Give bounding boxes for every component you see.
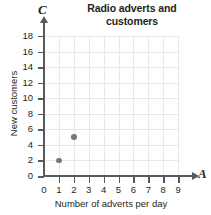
x-axis-tick-label: 3 xyxy=(82,185,96,195)
y-axis-tick xyxy=(38,83,44,85)
gridline-vertical xyxy=(133,36,134,176)
gridline-vertical xyxy=(89,36,90,176)
x-axis-tick-label: 6 xyxy=(126,185,140,195)
x-axis-letter: A xyxy=(198,166,207,182)
x-axis-tick xyxy=(163,177,165,183)
y-axis-tick xyxy=(38,114,44,116)
y-axis-tick xyxy=(38,67,44,69)
x-axis-tick-label: 5 xyxy=(112,185,126,195)
plot-area xyxy=(44,36,178,176)
x-axis-tick xyxy=(104,177,106,183)
y-axis-arrow-icon xyxy=(40,16,48,23)
chart-title-line-2: customers xyxy=(58,15,206,28)
x-axis-tick-label: 8 xyxy=(156,185,170,195)
x-axis-tick xyxy=(133,177,135,183)
scatter-chart: Radio adverts and customers C A 02468101… xyxy=(0,0,211,215)
gridline-vertical xyxy=(119,36,120,176)
y-axis-tick xyxy=(38,129,44,131)
gridline-horizontal xyxy=(44,52,178,53)
y-axis-tick xyxy=(38,145,44,147)
gridline-horizontal xyxy=(44,129,178,130)
gridline-vertical xyxy=(59,36,60,176)
x-axis-tick xyxy=(74,177,76,183)
gridline-vertical xyxy=(74,36,75,176)
gridline-horizontal xyxy=(44,83,178,84)
y-axis-tick-label: 18 xyxy=(0,31,33,41)
y-axis-tick xyxy=(38,98,44,100)
y-axis-tick xyxy=(38,36,44,38)
gridline-vertical xyxy=(178,36,179,176)
chart-title-line-1: Radio adverts and xyxy=(58,2,206,15)
x-axis-tick-label: 7 xyxy=(141,185,155,195)
gridline-horizontal xyxy=(44,145,178,146)
x-axis-tick-label: 4 xyxy=(97,185,111,195)
x-axis-tick-label: 2 xyxy=(67,185,81,195)
gridline-horizontal xyxy=(44,36,178,37)
x-axis-tick xyxy=(119,177,121,183)
chart-title: Radio adverts and customers xyxy=(58,2,206,27)
data-point xyxy=(56,158,62,164)
gridline-vertical xyxy=(104,36,105,176)
x-axis-tick-label: 0 xyxy=(37,185,51,195)
y-axis-tick xyxy=(38,52,44,54)
y-axis-tick xyxy=(38,176,44,178)
x-axis-title: Number of adverts per day xyxy=(18,198,204,209)
gridline-horizontal xyxy=(44,160,178,161)
gridline-horizontal xyxy=(44,67,178,68)
gridline-vertical xyxy=(163,36,164,176)
x-axis-tick xyxy=(148,177,150,183)
y-axis-tick-label: 0 xyxy=(0,171,33,181)
data-point xyxy=(71,134,77,140)
x-axis-tick-label: 1 xyxy=(52,185,66,195)
gridline-horizontal xyxy=(44,114,178,115)
y-axis-tick xyxy=(38,160,44,162)
gridline-horizontal xyxy=(44,98,178,99)
x-axis-arrow-icon xyxy=(192,172,199,180)
y-axis-title: New customers xyxy=(8,44,19,164)
x-axis-tick xyxy=(89,177,91,183)
x-axis-tick-label: 9 xyxy=(171,185,185,195)
x-axis-tick xyxy=(178,177,180,183)
x-axis-tick xyxy=(59,177,61,183)
gridline-vertical xyxy=(148,36,149,176)
